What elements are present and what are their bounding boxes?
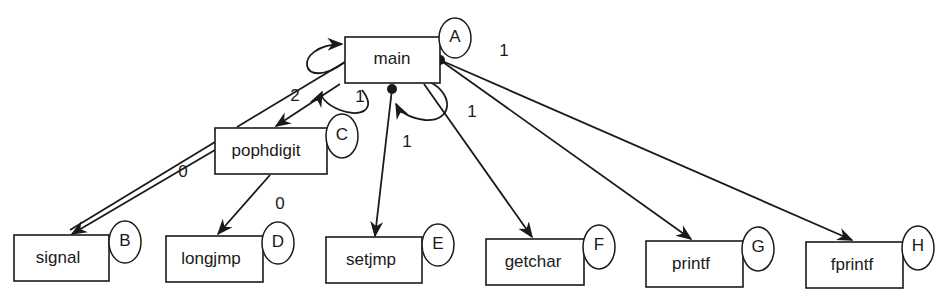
edge-main-self-loop-bottom [396,82,447,120]
node-tag-label-h: H [912,236,924,255]
node-tag-label-f: F [594,235,604,254]
node-getchar: getchar F [486,225,615,285]
node-tag-label-c: C [336,125,348,144]
node-label-printf: printf [672,254,710,273]
node-tag-label-d: D [272,232,284,251]
node-label-fprintf: fprintf [831,255,874,274]
edge-label-main-pophdigit: 1 [355,87,364,106]
node-tag-label-e: E [432,234,443,253]
edge-label-pophdigit-signal: 0 [178,162,187,181]
edge-label-main-getchar: 1 [467,102,476,121]
edge-main-to-fprintf [440,60,852,240]
edge-main-to-getchar [424,84,532,237]
node-pophdigit: pophdigit C [215,114,358,174]
edge-main-self-loop-left [307,44,345,73]
edge-label-pophdigit-longjmp: 0 [275,194,284,213]
node-setjmp: setjmp E [326,224,454,283]
node-main: main A [345,18,471,83]
edge-label-main-signal: 2 [290,86,299,105]
edge-main-to-setjmp [375,89,392,236]
node-label-setjmp: setjmp [346,250,396,269]
edge-label-main-setjmp: 1 [402,132,411,151]
call-graph-diagram: 1 1 2 0 0 1 1 main A signal B pophdigit … [0,0,949,301]
node-label-main: main [374,49,411,68]
node-label-signal: signal [36,248,80,267]
node-label-pophdigit: pophdigit [231,141,300,160]
edge-pophdigit-to-signal-a [70,142,215,230]
edge-pophdigit-to-longjmp [218,175,270,234]
node-longjmp: longjmp D [166,222,294,282]
node-printf: printf G [646,227,774,287]
node-tag-label-b: B [119,231,130,250]
edge-main-to-printf [440,60,691,239]
node-tag-label-a: A [449,27,461,46]
node-label-getchar: getchar [505,252,562,271]
edge-pophdigit-to-signal-b [72,150,215,234]
edges [70,44,852,240]
node-tag-label-g: G [751,237,764,256]
node-fprintf: fprintf H [806,226,934,288]
edge-label-main-right: 1 [499,41,508,60]
node-label-longjmp: longjmp [181,249,241,268]
